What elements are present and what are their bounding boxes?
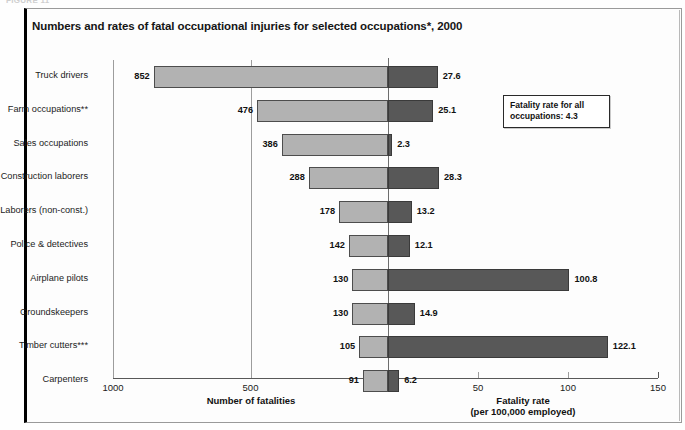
rate-value-label: 100.8 xyxy=(569,274,597,284)
bar-row: Sales occupations3862.3 xyxy=(0,134,685,156)
fatalities-bar xyxy=(352,269,388,291)
category-label: Construction laborers xyxy=(1,171,88,181)
fatalities-value-label: 130 xyxy=(333,274,352,284)
rate-value-label: 27.6 xyxy=(438,71,461,81)
right-axis-title-line2: (per 100,000 employed) xyxy=(470,406,575,417)
fatalities-value-label: 105 xyxy=(340,341,359,351)
fatalities-bar xyxy=(257,100,388,122)
rate-value-label: 6.2 xyxy=(399,375,417,385)
category-label: Timber cutters*** xyxy=(19,340,88,350)
fatalities-value-label: 91 xyxy=(349,375,363,385)
rate-bar xyxy=(388,235,410,257)
category-label: Airplane pilots xyxy=(30,273,88,283)
bar-row: Groundskeepers13014.9 xyxy=(0,303,685,325)
fatalities-bar xyxy=(359,336,388,358)
category-label: Police & detectives xyxy=(10,239,88,249)
rate-bar xyxy=(388,370,399,392)
bar-row: Police & detectives14212.1 xyxy=(0,235,685,257)
fatalities-value-label: 142 xyxy=(330,240,349,250)
rate-bar xyxy=(388,201,412,223)
rate-bar xyxy=(388,336,608,358)
fatalities-value-label: 386 xyxy=(263,139,282,149)
rate-value-label: 2.3 xyxy=(392,139,410,149)
rate-bar xyxy=(388,167,439,189)
category-label: Groundskeepers xyxy=(20,307,88,317)
fatalities-bar xyxy=(154,66,388,88)
rate-bar xyxy=(388,303,415,325)
fatalities-value-label: 288 xyxy=(289,172,308,182)
rate-value-label: 12.1 xyxy=(410,240,433,250)
rate-bar xyxy=(388,100,433,122)
category-label: Carpenters xyxy=(43,374,88,384)
fatalities-bar xyxy=(363,370,388,392)
rate-value-label: 14.9 xyxy=(415,308,438,318)
plot-area: 10005000050100150 Truck drivers85227.6Fa… xyxy=(0,0,685,430)
rate-bar xyxy=(388,269,569,291)
bar-row: Airplane pilots130100.8 xyxy=(0,269,685,291)
bar-row: Truck drivers85227.6 xyxy=(0,66,685,88)
bar-row: Construction laborers28828.3 xyxy=(0,167,685,189)
fatalities-value-label: 178 xyxy=(320,206,339,216)
bar-row: Timber cutters***105122.1 xyxy=(0,336,685,358)
fatalities-value-label: 130 xyxy=(333,308,352,318)
fatalities-bar xyxy=(349,235,388,257)
bar-row: Laborers (non-const.)17813.2 xyxy=(0,201,685,223)
fatalities-bar xyxy=(339,201,388,223)
rate-value-label: 13.2 xyxy=(412,206,435,216)
left-axis-title: Number of fatalities xyxy=(207,395,296,406)
category-label: Farm occupations** xyxy=(8,104,88,114)
rate-bar xyxy=(388,66,438,88)
category-label: Sales occupations xyxy=(13,138,88,148)
fatalities-bar xyxy=(352,303,388,325)
rate-value-label: 28.3 xyxy=(439,172,462,182)
rate-value-label: 25.1 xyxy=(433,105,456,115)
fatalities-value-label: 476 xyxy=(238,105,257,115)
rate-value-label: 122.1 xyxy=(608,341,636,351)
category-label: Laborers (non-const.) xyxy=(0,205,88,215)
fatalities-bar xyxy=(309,167,388,189)
figure-container: FIGURE 11 Numbers and rates of fatal occ… xyxy=(0,0,685,430)
right-axis-title: Fatality rate (per 100,000 employed) xyxy=(470,395,575,417)
right-axis-title-line1: Fatality rate xyxy=(470,395,575,406)
bar-row: Carpenters916.2 xyxy=(0,370,685,392)
fatalities-bar xyxy=(282,134,388,156)
callout-box: Fatality rate for all occupations: 4.3 xyxy=(503,95,610,128)
fatalities-value-label: 852 xyxy=(134,71,153,81)
category-label: Truck drivers xyxy=(35,70,88,80)
